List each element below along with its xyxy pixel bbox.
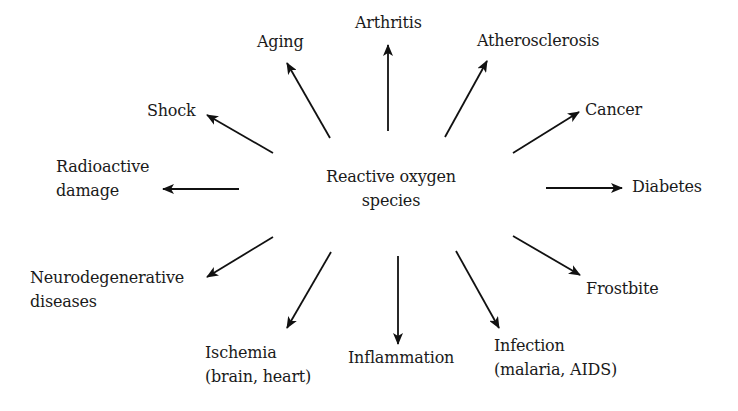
node-label-line: Frostbite — [586, 277, 658, 301]
node-cancer: Cancer — [585, 98, 642, 122]
center-label-reactive-oxygen-species: Reactive oxygen species — [318, 165, 464, 213]
node-label-line: damage — [56, 179, 149, 203]
node-arthritis: Arthritis — [355, 11, 422, 35]
node-label-line: Shock — [147, 99, 196, 123]
center-label-line-2: species — [318, 189, 464, 213]
arrow-to-neurodegenerative-diseases-icon — [207, 237, 273, 277]
arrow-to-atherosclerosis-icon — [445, 61, 487, 137]
node-diabetes: Diabetes — [632, 175, 702, 199]
node-label-line: Diabetes — [632, 175, 702, 199]
node-label-line: Aging — [257, 30, 303, 54]
node-infection: Infection(malaria, AIDS) — [494, 334, 617, 382]
node-radioactive-damage: Radioactivedamage — [56, 155, 149, 203]
node-label-line: (malaria, AIDS) — [494, 358, 617, 382]
node-label-line: Atherosclerosis — [477, 29, 599, 53]
node-label-line: Infection — [494, 334, 617, 358]
node-shock: Shock — [147, 99, 196, 123]
node-label-line: Radioactive — [56, 155, 149, 179]
node-label-line: Ischemia — [205, 341, 311, 365]
node-label-line: Neurodegenerative — [30, 266, 184, 290]
arrow-to-frostbite-icon — [513, 236, 580, 275]
node-atherosclerosis: Atherosclerosis — [477, 29, 599, 53]
node-label-line: diseases — [30, 290, 184, 314]
center-label-line-1: Reactive oxygen — [318, 165, 464, 189]
arrow-to-cancer-icon — [513, 112, 579, 153]
node-label-line: Arthritis — [355, 11, 422, 35]
node-label-line: Cancer — [585, 98, 642, 122]
arrow-to-infection-icon — [456, 251, 499, 328]
node-frostbite: Frostbite — [586, 277, 658, 301]
node-label-line: Inflammation — [348, 346, 454, 370]
arrow-to-shock-icon — [207, 115, 273, 153]
node-neurodegenerative-diseases: Neurodegenerativediseases — [30, 266, 184, 314]
node-inflammation: Inflammation — [348, 346, 454, 370]
ros-diagram: Reactive oxygen species AgingArthritisAt… — [0, 0, 738, 411]
arrow-to-ischemia-icon — [287, 252, 331, 328]
node-aging: Aging — [257, 30, 303, 54]
node-ischemia: Ischemia(brain, heart) — [205, 341, 311, 389]
arrow-to-aging-icon — [287, 63, 330, 138]
node-label-line: (brain, heart) — [205, 365, 311, 389]
